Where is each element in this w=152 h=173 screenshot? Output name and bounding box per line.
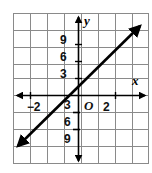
y-axis-label: y xyxy=(84,14,90,27)
x-tick-label-neg2: −2 xyxy=(27,101,40,113)
coordinate-plane-svg xyxy=(0,0,152,173)
x-axis-label: x xyxy=(132,74,139,87)
y-tick-label-neg9: 9 xyxy=(64,133,70,145)
origin-label: O xyxy=(84,99,93,112)
y-tick-label-6: 6 xyxy=(60,51,66,63)
y-tick-label-9: 9 xyxy=(60,34,66,46)
y-tick-label-neg6: 6 xyxy=(64,116,70,128)
y-tick-label-3: 3 xyxy=(60,68,66,80)
coordinate-graph-figure: 9 6 3 3 6 9 −2 2 O x y xyxy=(0,0,152,173)
x-tick-label-2: 2 xyxy=(103,101,109,113)
y-tick-label-neg3: 3 xyxy=(64,99,70,111)
